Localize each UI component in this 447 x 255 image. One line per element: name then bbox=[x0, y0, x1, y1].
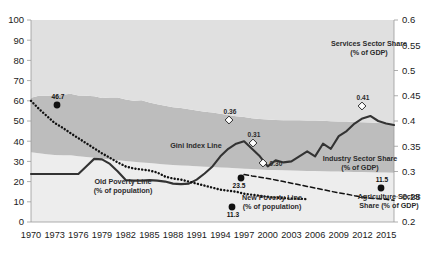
label-line: (% of GDP) bbox=[350, 48, 388, 57]
x-axis-tick-label: 1985 bbox=[139, 230, 159, 240]
left-axis-tick-label: 60 bbox=[13, 95, 24, 106]
annotation-value-label: 0.36 bbox=[224, 108, 237, 115]
x-axis-tick-label: 1976 bbox=[68, 230, 88, 240]
annotation-value-label: 46.7 bbox=[52, 93, 65, 100]
left-axis-tick-label: 70 bbox=[13, 75, 24, 86]
x-axis-tick-label: 2009 bbox=[329, 230, 349, 240]
data-point-marker bbox=[378, 185, 385, 192]
x-axis-tick-label: 1982 bbox=[115, 230, 135, 240]
right-axis-tick-label: 0.35 bbox=[402, 141, 421, 152]
right-axis-tick-label: 0.5 bbox=[402, 65, 415, 76]
label-line: (% of GDP) bbox=[341, 163, 379, 172]
right-axis-tick-label: 0.25 bbox=[402, 191, 421, 202]
x-axis-tick-label: 2006 bbox=[305, 230, 325, 240]
left-axis-tick-label: 40 bbox=[13, 136, 24, 147]
x-axis-tick-label: 1994 bbox=[210, 230, 230, 240]
label-new-poverty: New Poverty Line(% of population) bbox=[242, 193, 302, 211]
x-axis-tick-label: 1973 bbox=[44, 230, 64, 240]
right-axis-tick-label: 0.55 bbox=[402, 40, 421, 51]
x-axis-tick-label: 2012 bbox=[352, 230, 372, 240]
label-line: Gini Index Line bbox=[170, 141, 222, 150]
x-axis-tick-label: 1988 bbox=[163, 230, 183, 240]
left-axis-tick-label: 100 bbox=[8, 14, 24, 25]
x-axis-tick-label: 1979 bbox=[92, 230, 112, 240]
economic-indicators-chart: 46.711.323.511.50.360.310.300.41 Service… bbox=[0, 0, 447, 255]
right-axis-tick-label: 0.2 bbox=[402, 216, 415, 227]
x-axis-tick-label: 2015 bbox=[376, 230, 396, 240]
left-axis-tick-label: 30 bbox=[13, 156, 24, 167]
annotation-value-label: 0.30 bbox=[270, 160, 283, 167]
left-axis-tick-label: 0 bbox=[19, 216, 24, 227]
label-line: (% of population) bbox=[94, 186, 153, 195]
x-axis-tick-label: 2000 bbox=[258, 230, 278, 240]
annotation-value-label: 11.3 bbox=[227, 211, 240, 218]
left-axis-tick-label: 90 bbox=[13, 35, 24, 46]
right-axis-tick-label: 0.45 bbox=[402, 90, 421, 101]
chart-container: 46.711.323.511.50.360.310.300.41 Service… bbox=[0, 0, 447, 255]
left-axis-tick-label: 10 bbox=[13, 196, 24, 207]
data-point-marker bbox=[238, 175, 245, 182]
x-axis-tick-label: 1991 bbox=[186, 230, 206, 240]
label-line: (% of population) bbox=[243, 202, 302, 211]
annotation-value-label: 0.31 bbox=[248, 131, 261, 138]
data-point-marker bbox=[54, 102, 61, 109]
label-gini: Gini Index Line bbox=[170, 141, 222, 150]
x-axis-tick-label: 2003 bbox=[281, 230, 301, 240]
x-axis-tick-label: 1997 bbox=[234, 230, 254, 240]
data-point-marker bbox=[229, 204, 236, 211]
right-axis-tick-label: 0.4 bbox=[402, 115, 415, 126]
right-axis-tick-label: 0.6 bbox=[402, 14, 415, 25]
annotation-value-label: 11.5 bbox=[376, 176, 389, 183]
left-axis-tick-label: 80 bbox=[13, 55, 24, 66]
left-axis-tick-label: 20 bbox=[13, 176, 24, 187]
stacked-area-bands bbox=[31, 20, 394, 222]
left-axis-tick-label: 50 bbox=[13, 115, 24, 126]
annotation-value-label: 23.5 bbox=[233, 182, 246, 189]
label-old-poverty: Old Poverty Line(% of population) bbox=[94, 177, 153, 195]
annotation-value-label: 0.41 bbox=[357, 94, 370, 101]
right-axis-tick-label: 0.3 bbox=[402, 166, 415, 177]
x-axis-tick-label: 1970 bbox=[21, 230, 41, 240]
